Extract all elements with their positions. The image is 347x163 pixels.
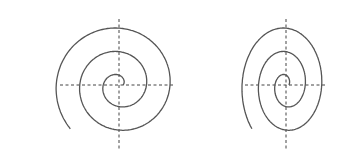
spiral-figure xyxy=(0,0,347,163)
elliptical-spiral-diagram xyxy=(242,19,326,151)
spiral-curve xyxy=(242,28,322,130)
circular-spiral-diagram xyxy=(56,19,174,151)
spiral-curve xyxy=(56,28,170,130)
